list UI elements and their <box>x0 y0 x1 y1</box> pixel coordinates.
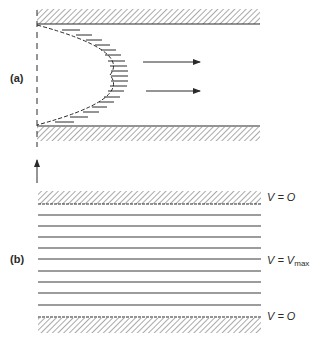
top-wall-hatch <box>37 9 260 24</box>
max-velocity-label: V = Vmax <box>267 254 309 268</box>
streamlines <box>38 215 261 305</box>
b-top-wall-hatch <box>38 191 261 204</box>
max-velocity-subscript: max <box>294 259 309 268</box>
b-bottom-wall-hatch <box>38 318 261 333</box>
velocity-profile-curve <box>37 25 114 125</box>
panel-b-label: (b) <box>10 253 24 265</box>
panel-b <box>38 191 261 333</box>
panel-a <box>37 9 260 147</box>
diagram-canvas <box>0 0 317 338</box>
bottom-wall-hatch <box>37 127 260 141</box>
max-velocity-prefix: V = V <box>267 254 294 266</box>
panel-a-label: (a) <box>10 72 23 84</box>
top-velocity-label: V = O <box>267 191 295 203</box>
bottom-velocity-label: V = O <box>267 310 295 322</box>
